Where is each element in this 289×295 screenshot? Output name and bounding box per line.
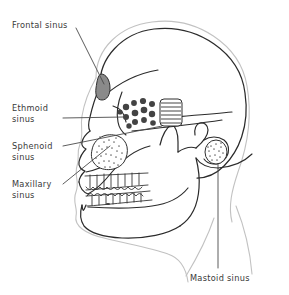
label-mastoid-sinus: Mastoid sinus — [190, 273, 250, 283]
sphenoid-sinus-region — [160, 99, 182, 126]
label-ethmoid-sinus-line2: sinus — [12, 114, 35, 124]
mental-foramen — [106, 203, 110, 205]
label-ethmoid-sinus-line1: Ethmoid — [12, 103, 48, 113]
frontal-sinus-region — [96, 74, 110, 100]
label-sphenoid-sinus-line1: Sphenoid — [12, 141, 53, 151]
label-frontal-sinus: Frontal sinus — [12, 20, 68, 30]
sinus-anatomy-diagram: Frontal sinus Ethmoid sinus Sphenoid sin… — [0, 0, 289, 295]
label-maxillary-sinus-line1: Maxillary — [12, 179, 52, 189]
label-sphenoid-sinus-line2: sinus — [12, 152, 35, 162]
maxillary-sinus-region — [91, 135, 127, 170]
label-maxillary-sinus-line2: sinus — [12, 190, 35, 200]
mastoid-sinus-region — [205, 140, 227, 164]
